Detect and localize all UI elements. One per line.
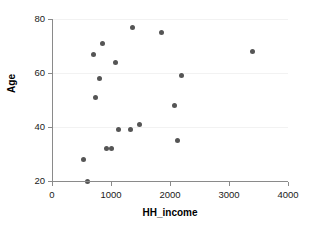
x-axis-tick-label: 0 <box>49 189 54 200</box>
data-point <box>128 127 133 132</box>
x-axis-title: HH_income <box>52 207 288 218</box>
y-axis-tick-labels: 20406080 <box>0 0 45 229</box>
data-point <box>179 73 184 78</box>
x-axis-tick-label: 2000 <box>159 189 180 200</box>
data-point <box>116 127 121 132</box>
y-axis-tick-label: 20 <box>34 175 45 186</box>
gridline <box>52 19 288 20</box>
y-axis-title: Age <box>6 74 17 93</box>
scatter-plot-figure: 20406080 01000200030004000 HH_income Age <box>0 0 309 229</box>
y-axis-tick <box>48 127 52 128</box>
plot-area <box>52 19 288 181</box>
y-axis-tick-label: 40 <box>34 121 45 132</box>
x-axis-tick <box>52 182 53 186</box>
gridline <box>52 73 288 74</box>
data-point <box>91 52 96 57</box>
x-axis-tick <box>111 182 112 186</box>
x-axis-tick <box>170 182 171 186</box>
x-axis-tick-label: 4000 <box>277 189 298 200</box>
x-axis-tick-label: 3000 <box>218 189 239 200</box>
data-point <box>93 95 98 100</box>
x-axis-tick <box>288 182 289 186</box>
data-point <box>250 49 255 54</box>
x-axis-tick <box>229 182 230 186</box>
data-point <box>100 41 105 46</box>
data-point <box>130 25 135 30</box>
data-point <box>159 30 164 35</box>
data-point <box>97 76 102 81</box>
data-point <box>109 146 114 151</box>
y-axis-tick-label: 60 <box>34 67 45 78</box>
gridline <box>52 127 288 128</box>
data-point <box>113 60 118 65</box>
data-point <box>175 138 180 143</box>
x-axis-tick-label: 1000 <box>100 189 121 200</box>
data-point <box>137 122 142 127</box>
y-axis-tick <box>48 73 52 74</box>
data-point <box>172 103 177 108</box>
y-axis-line <box>52 19 53 181</box>
y-axis-tick <box>48 19 52 20</box>
y-axis-tick-label: 80 <box>34 13 45 24</box>
data-point <box>81 157 86 162</box>
